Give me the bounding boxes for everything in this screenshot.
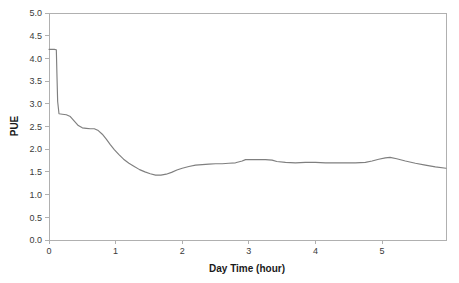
x-tick-label: 4: [313, 246, 318, 256]
y-tick-label: 3.0: [29, 99, 42, 109]
chart-background: [0, 0, 459, 283]
y-tick-label: 4.5: [29, 31, 42, 41]
y-tick-label: 0.0: [29, 235, 42, 245]
y-tick-label: 2.0: [29, 144, 42, 154]
x-tick-label: 1: [113, 246, 118, 256]
x-tick-label: 5: [380, 246, 385, 256]
x-tick-label: 2: [180, 246, 185, 256]
y-tick-label: 3.5: [29, 76, 42, 86]
y-axis-title: PUE: [9, 115, 20, 136]
y-tick-label: 2.5: [29, 122, 42, 132]
y-tick-label: 5.0: [29, 8, 42, 18]
x-axis-title: Day Time (hour): [209, 263, 285, 274]
pue-line-chart: 0.00.51.01.52.02.53.03.54.04.55.0 012345…: [0, 0, 459, 283]
y-tick-label: 4.0: [29, 54, 42, 64]
y-tick-label: 1.0: [29, 190, 42, 200]
y-tick-label: 0.5: [29, 213, 42, 223]
x-tick-label: 0: [46, 246, 51, 256]
y-tick-label: 1.5: [29, 167, 42, 177]
x-tick-label: 3: [246, 246, 251, 256]
